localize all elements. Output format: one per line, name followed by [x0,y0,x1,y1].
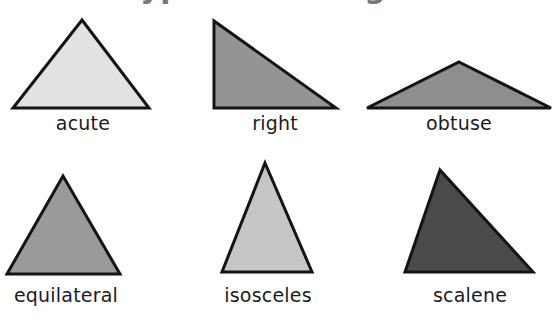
triangle-shape-isosceles [218,158,318,280]
figure-right: right [208,16,342,140]
figure-label-equilateral: equilateral [4,284,128,306]
triangle-shape-right [208,16,342,116]
figure-equilateral: equilateral [4,170,128,312]
triangle-polygon-obtuse [367,62,551,108]
triangle-polygon-right [214,21,336,108]
figure-obtuse: obtuse [362,56,556,140]
triangle-polygon-isosceles [222,163,312,272]
triangle-types-illustration: Types of Triangles acuterightobtuseequil… [0,0,559,324]
figure-scalene: scalene [400,164,540,312]
page-title: Types of Triangles [0,0,559,5]
figure-label-isosceles: isosceles [218,284,318,306]
figure-isosceles: isosceles [218,158,318,312]
triangle-shape-equilateral [4,170,128,280]
figure-label-right: right [208,112,342,134]
figure-acute: acute [8,16,158,140]
triangle-polygon-equilateral [7,176,120,274]
triangle-polygon-acute [13,20,149,108]
triangle-shape-acute [8,16,158,116]
figure-label-obtuse: obtuse [362,112,556,134]
triangle-polygon-scalene [405,170,533,272]
figure-label-acute: acute [8,112,158,134]
triangle-shape-obtuse [362,56,556,116]
figure-label-scalene: scalene [400,284,540,306]
triangle-shape-scalene [400,164,540,280]
